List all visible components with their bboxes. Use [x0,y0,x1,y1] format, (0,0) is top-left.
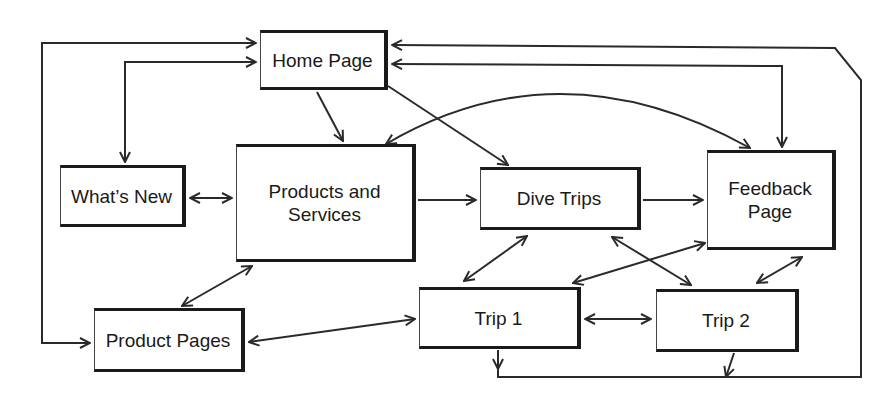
edge-feedback-trip2 [757,257,802,283]
node-label: Home Page [272,49,372,72]
node-label: Trip 2 [702,309,750,332]
node-label-line2: Services [288,203,361,226]
node-feedback-page[interactable]: Feedback Page [707,150,836,250]
node-dive-trips[interactable]: Dive Trips [480,167,641,230]
node-label: What’s New [71,185,172,208]
node-home-page[interactable]: Home Page [260,30,388,90]
node-product-pages[interactable]: Product Pages [94,308,245,372]
node-label: Product Pages [106,329,231,352]
edge-productpages-trip1 [249,319,415,342]
node-products-and-services[interactable]: Products and Services [236,144,416,262]
node-label-line2: Page [748,200,792,223]
node-label: Trip 1 [475,307,523,330]
node-label: Dive Trips [517,187,601,210]
edge-home-products [317,92,343,141]
edge-divetrips-trip1 [464,236,527,281]
node-trip-1[interactable]: Trip 1 [419,287,581,349]
edge-products-productpages [182,266,252,306]
node-whats-new[interactable]: What’s New [60,165,186,227]
node-label-line1: Products and [269,180,381,203]
node-trip-2[interactable]: Trip 2 [656,289,799,352]
edge-divetrips-trip2 [612,237,691,285]
edge-trip2-down [726,353,734,377]
edge-feedback-trip1 [573,243,705,283]
node-label-line1: Feedback [728,177,811,200]
